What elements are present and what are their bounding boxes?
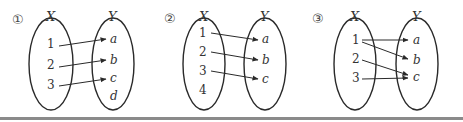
diagram-label: ① (12, 12, 24, 27)
set-y-label: Y (412, 9, 422, 24)
diagram-label: ② (164, 11, 176, 26)
codomain-element: c (110, 71, 117, 85)
domain-element: 3 (199, 64, 207, 78)
set-y-label: Y (260, 9, 270, 24)
mapping-arrow (59, 39, 106, 46)
mapping-arrow (59, 60, 106, 67)
diagram-label: ③ (312, 11, 324, 26)
mapping-arrow (59, 79, 106, 86)
set-x-label: X (349, 9, 360, 24)
set-x-label: X (45, 9, 56, 24)
domain-element: 1 (199, 26, 207, 40)
codomain-element: a (413, 33, 420, 47)
mapping-arrow (362, 78, 408, 79)
mapping-arrow (211, 33, 258, 40)
domain-element: 4 (199, 83, 207, 97)
diagram-1: ① X Y 1 2 3 a b c d (12, 9, 134, 110)
diagram-2: ② X Y 1 2 3 4 a b c (164, 9, 286, 110)
set-y-label: Y (108, 9, 118, 24)
codomain-element: b (413, 53, 421, 67)
domain-element: 2 (352, 52, 360, 66)
codomain-element: d (110, 89, 118, 103)
codomain-element: a (262, 32, 269, 46)
domain-element: 1 (352, 33, 360, 47)
mapping-arrow (211, 71, 258, 79)
bottom-divider (0, 117, 463, 120)
domain-element: 3 (352, 71, 360, 85)
diagram-3: ③ X Y 1 2 3 a b c (312, 9, 438, 110)
domain-element: 1 (47, 37, 55, 51)
domain-element: 3 (47, 78, 55, 92)
mapping-arrow (211, 52, 258, 60)
codomain-element: b (262, 53, 270, 67)
mapping-arrow (362, 60, 408, 75)
codomain-element: c (413, 70, 420, 84)
set-x-label: X (198, 9, 209, 24)
codomain-element: b (110, 53, 118, 67)
codomain-element: c (262, 72, 269, 86)
mapping-diagrams: ① X Y 1 2 3 a b c d ② X Y 1 2 3 4 a b c … (0, 0, 463, 122)
mapping-arrow (362, 42, 408, 59)
codomain-element: a (110, 32, 117, 46)
domain-element: 2 (47, 58, 55, 72)
domain-element: 2 (199, 45, 207, 59)
